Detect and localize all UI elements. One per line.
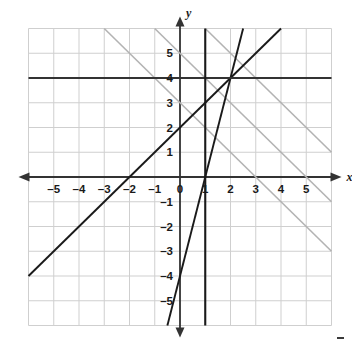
y-tick-label: 3 — [167, 97, 173, 109]
x-axis-arrow-left — [19, 173, 30, 182]
x-tick-label: 1 — [202, 183, 209, 195]
x-tick-label: –2 — [123, 183, 136, 195]
y-axis-label: y — [184, 6, 192, 20]
x-tick-label: 5 — [303, 183, 310, 195]
y-axis-arrow-down — [176, 328, 185, 338]
x-tick-label: 4 — [278, 183, 285, 195]
y-tick-label: 4 — [167, 72, 174, 84]
x-tick-label: 0 — [177, 183, 183, 195]
graph-canvas: –5–4–3–2–101234554321–1–2–3–4–5 xy — [0, 0, 352, 345]
plot-gray-line-3 — [205, 29, 331, 153]
x-tick-label: –3 — [98, 183, 111, 195]
x-tick-label: –1 — [148, 183, 161, 195]
y-tick-label: –1 — [160, 196, 173, 208]
y-tick-label: –2 — [160, 221, 173, 233]
y-tick-label: 2 — [167, 122, 173, 134]
coordinate-graph: –5–4–3–2–101234554321–1–2–3–4–5 xy — [0, 0, 352, 345]
y-tick-label: –5 — [160, 295, 173, 307]
x-tick-label: 3 — [253, 183, 259, 195]
x-tick-label: 2 — [227, 183, 233, 195]
x-tick-label: –5 — [47, 183, 60, 195]
corner-artifact-mark — [337, 337, 344, 339]
x-axis-label: x — [346, 170, 352, 184]
y-axis-arrow-up — [176, 17, 185, 27]
axes — [19, 17, 342, 338]
y-tick-label: 1 — [167, 146, 174, 158]
x-tick-label: –4 — [73, 183, 86, 195]
plot-gray-line-1 — [104, 29, 331, 252]
y-tick-label: –4 — [160, 270, 173, 282]
y-tick-label: 5 — [167, 47, 174, 59]
x-axis-arrow-right — [331, 173, 342, 182]
plot-gray-line-2 — [155, 29, 332, 202]
y-tick-label: –3 — [160, 245, 173, 257]
